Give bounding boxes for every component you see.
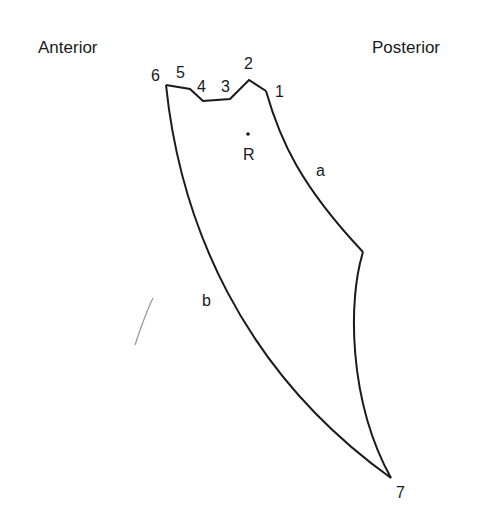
posterior-lower-edge — [354, 252, 391, 478]
outline-svg — [0, 0, 486, 525]
reference-point-dot — [246, 132, 250, 136]
point-4-label: 4 — [197, 79, 206, 95]
point-2-label: 2 — [244, 56, 253, 72]
stray-mark — [135, 298, 153, 345]
anterior-label: Anterior — [38, 39, 98, 56]
edge-a-label: a — [316, 163, 325, 179]
reference-point-label: R — [243, 147, 255, 163]
point-5-label: 5 — [176, 65, 185, 81]
posterior-label: Posterior — [372, 39, 440, 56]
point-6-label: 6 — [151, 68, 160, 84]
tooth-outline-diagram: Anterior Posterior 6 5 4 3 2 1 7 R a b — [0, 0, 486, 525]
point-1-label: 1 — [275, 84, 284, 100]
edge-a — [266, 91, 363, 252]
point-3-label: 3 — [221, 79, 230, 95]
crown-outline — [166, 80, 266, 101]
point-7-label: 7 — [396, 485, 405, 501]
edge-b-label: b — [202, 293, 211, 309]
